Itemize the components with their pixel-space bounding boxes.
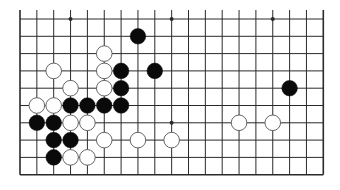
star-point [271, 17, 275, 21]
white-stone [130, 132, 146, 148]
black-stone [96, 98, 112, 114]
white-stone [63, 80, 79, 96]
black-stone [46, 115, 62, 131]
black-stone [130, 29, 146, 45]
white-stone [164, 132, 180, 148]
black-stone [113, 80, 129, 96]
white-stone [96, 46, 112, 62]
star-point [170, 121, 174, 125]
white-stone [265, 115, 281, 131]
white-stone [96, 80, 112, 96]
white-stone [80, 150, 96, 166]
black-stone [29, 115, 45, 131]
star-point [170, 17, 174, 21]
black-stone [80, 98, 96, 114]
white-stone [46, 63, 62, 79]
white-stone [29, 98, 45, 114]
white-stone [63, 150, 79, 166]
black-stone [63, 132, 79, 148]
white-stone [231, 115, 247, 131]
white-stone [96, 132, 112, 148]
black-stone [147, 63, 163, 79]
black-stone [63, 98, 79, 114]
go-board [0, 0, 340, 190]
star-point [69, 17, 73, 21]
white-stone [63, 115, 79, 131]
black-stone [46, 150, 62, 166]
white-stone [96, 63, 112, 79]
white-stone [80, 115, 96, 131]
black-stone [282, 80, 298, 96]
black-stone [113, 98, 129, 114]
white-stone [46, 98, 62, 114]
black-stone [113, 63, 129, 79]
black-stone [46, 132, 62, 148]
